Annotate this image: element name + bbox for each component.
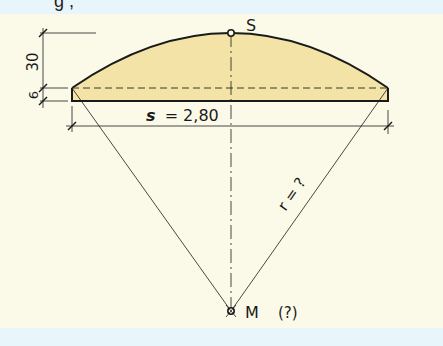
- arch-diagram: 30 6 s = 2,80 r = ? S M (?): [0, 0, 443, 346]
- arch-segment-fill: [72, 33, 388, 101]
- chord-variable: s: [146, 106, 156, 125]
- radius-line-right: [231, 88, 388, 311]
- radius-label: r = ?: [274, 174, 310, 214]
- point-s-marker: [228, 30, 234, 36]
- band-thickness-label: 6: [26, 91, 41, 99]
- point-m-label: M: [245, 303, 259, 322]
- point-s-label: S: [246, 16, 256, 35]
- chord-value: = 2,80: [165, 106, 219, 125]
- rise-dimension-label: 30: [24, 52, 42, 71]
- point-m-note: (?): [278, 304, 298, 322]
- chord-label: s = 2,80: [146, 106, 219, 125]
